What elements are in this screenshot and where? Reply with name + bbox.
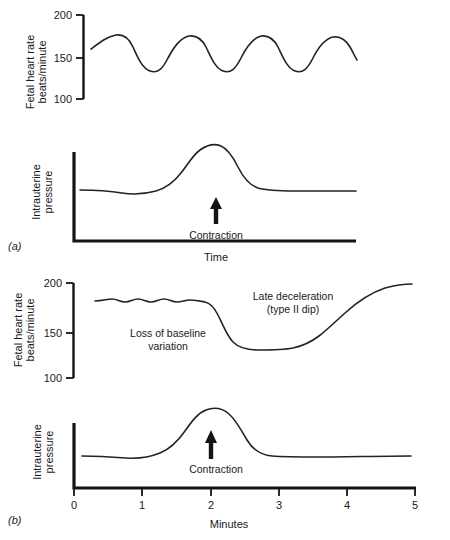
panel-b-xtick-5: 5 (412, 499, 418, 511)
panel-a-ytick-200: 200 (54, 9, 72, 21)
panel-b-loss-variation-line1: Loss of baseline (130, 327, 206, 339)
panel-b-ytick-100: 100 (44, 372, 62, 384)
panel-b-ytick-200: 200 (44, 277, 62, 289)
panel-b-tag: (b) (8, 514, 22, 526)
panel-b-xtick-4: 4 (344, 499, 350, 511)
panel-b-ytick-150: 150 (44, 327, 62, 339)
panel-a-fhr-ylabel-line2: beats/minute (36, 41, 48, 104)
panel-a-pressure-ylabel-line2: pressure (42, 171, 54, 214)
fetal-monitoring-figure: Fetal heart rate beats/minute 200 150 10… (0, 0, 450, 540)
panel-a-contraction-arrow-icon (210, 197, 222, 224)
panel-a-ytick-100: 100 (54, 93, 72, 105)
panel-a-pressure-axes (74, 152, 356, 241)
panel-a-fhr-ylabel-line1: Fetal heart rate (24, 35, 36, 110)
panel-b-pressure-ylabel-line1: Intrauterine (31, 424, 43, 480)
panel-a-fhr-trace (91, 35, 357, 72)
panel-b-xtick-3: 3 (276, 499, 282, 511)
panel-b-xlabel: Minutes (210, 518, 249, 530)
panel-b-fhr-ylabel-line1: Fetal heart rate (12, 293, 24, 368)
panel-b-fhr-chart: Fetal heart rate beats/minute 200 150 10… (12, 277, 412, 384)
panel-b-pressure-chart: Intrauterine pressure 0 1 2 3 4 5 Contra… (31, 408, 418, 530)
panel-b-contraction-label: Contraction (189, 463, 243, 475)
panel-b-xtick-1: 1 (139, 499, 145, 511)
panel-b-loss-variation-line2: variation (148, 340, 188, 352)
panel-b-contraction-arrow-icon (205, 430, 217, 459)
panel-b-xtick-0: 0 (71, 499, 77, 511)
panel-a-ytick-150: 150 (54, 52, 72, 64)
panel-a-pressure-ylabel-line1: Intrauterine (30, 164, 42, 220)
panel-b-late-decel-line1: Late deceleration (253, 290, 334, 302)
panel-b-fhr-ylabel-line2: beats/minute (24, 299, 36, 362)
panel-a-fhr-chart: Fetal heart rate beats/minute 200 150 10… (24, 9, 357, 109)
panel-a-tag: (a) (8, 240, 22, 252)
panel-b-pressure-trace (82, 408, 411, 458)
panel-a-pressure-chart: Intrauterine pressure Contraction Time (30, 145, 356, 263)
panel-a-pressure-trace (80, 145, 356, 194)
panel-b-xtick-2: 2 (208, 499, 214, 511)
panel-b-late-decel-line2: (type II dip) (267, 303, 320, 315)
panel-b-pressure-axes (74, 423, 416, 488)
panel-a-xlabel: Time (204, 251, 228, 263)
panel-b-pressure-ylabel-line2: pressure (43, 431, 55, 474)
panel-a-contraction-label: Contraction (189, 229, 243, 241)
